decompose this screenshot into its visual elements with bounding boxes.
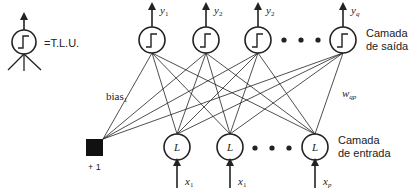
bias-unit-square	[86, 139, 103, 156]
input-layer-label-line1: Camada	[338, 134, 380, 146]
linear-unit-glyph: L	[226, 141, 233, 153]
input-layer-label-line2: de entrada	[338, 147, 391, 159]
bias-label: bias1	[106, 90, 128, 104]
legend-label: =T.L.U.	[44, 37, 79, 49]
input-label-1: x1	[184, 175, 194, 189]
linear-unit-glyph: L	[173, 141, 180, 153]
neural-network-diagram: =T.L.U. y1 y2 y	[0, 0, 409, 191]
output-label-2: y2	[213, 4, 223, 18]
input-ellipsis-dots	[252, 145, 291, 150]
output-label-3: y2	[265, 4, 275, 18]
output-layer-label-line1: Camada	[366, 27, 408, 39]
weight-label: wqp	[342, 87, 357, 101]
output-ellipsis-dots	[281, 37, 320, 42]
linear-unit-glyph: L	[311, 141, 318, 153]
input-label-2: x1	[237, 175, 247, 189]
legend-tlu-icon	[8, 16, 41, 71]
output-layer-label-line2: de saída	[366, 40, 409, 52]
connections	[103, 53, 343, 139]
input-label-p: xp	[322, 175, 332, 189]
output-label-q: yq	[350, 4, 360, 18]
bias-unit-label: + 1	[88, 162, 101, 172]
output-label-1: y1	[159, 4, 169, 18]
